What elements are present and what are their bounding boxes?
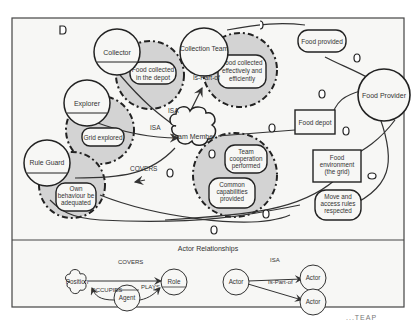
svg-text:Agent: Agent (119, 294, 136, 302)
legend-occupies-label: OCCUPIES (91, 287, 122, 293)
svg-text:Actor: Actor (229, 278, 244, 285)
svg-text:adequated: adequated (61, 199, 91, 207)
label-isa-explorer: ISA (150, 124, 161, 131)
svg-text:efficiently: efficiently (229, 75, 256, 83)
svg-text:Collection Team: Collection Team (180, 45, 229, 52)
goal-food-collected-depot[interactable]: Food collected in the depot (130, 62, 176, 84)
label-covers: COVERS (130, 165, 158, 172)
svg-text:Rule Guard: Rule Guard (30, 159, 65, 166)
svg-text:behaviour be: behaviour be (58, 192, 95, 199)
actor-collection-team[interactable]: Collection Team (180, 28, 229, 76)
goal-food-provided[interactable]: Food provided (298, 30, 346, 52)
caption-fragment: ...TEAP (346, 314, 377, 321)
svg-text:in the depot: in the depot (136, 74, 170, 82)
svg-text:Move and: Move and (324, 193, 352, 200)
resource-food-environment[interactable]: Food environment (the grid) (313, 150, 361, 182)
legend-title: Actor Relationships (178, 245, 239, 253)
svg-text:provided: provided (220, 195, 245, 203)
legend-isa-label: ISA (270, 257, 280, 263)
legend-role: Role (161, 269, 187, 295)
svg-text:Food depot: Food depot (299, 119, 332, 127)
legend-actor-a: Actor (223, 269, 249, 295)
goal-common-capabilities[interactable]: Common capabilities provided (209, 178, 255, 208)
actor-explorer[interactable]: Explorer (64, 80, 110, 126)
svg-text:environment: environment (320, 161, 355, 168)
svg-text:access rules: access rules (321, 200, 356, 207)
svg-text:Role: Role (168, 278, 181, 285)
legend-actor-b: Actor (300, 265, 326, 291)
goal-team-cooperation[interactable]: Team cooperation performed (225, 145, 267, 173)
goal-own-behaviour[interactable]: Own behaviour be adequated (56, 183, 96, 211)
svg-text:Food: Food (330, 154, 345, 161)
actor-rule-guard[interactable]: Rule Guard (24, 140, 70, 186)
resource-food-depot[interactable]: Food depot (295, 110, 335, 134)
svg-text:Team: Team (238, 148, 253, 155)
svg-text:Food provided: Food provided (301, 38, 343, 46)
legend-is-part-of-label: Is-Part-of (268, 279, 293, 285)
svg-text:effectively and: effectively and (222, 67, 263, 75)
svg-text:Grid explored: Grid explored (83, 134, 122, 142)
svg-text:Actor: Actor (306, 298, 321, 305)
label-is-part-of: Is-Part-of (193, 74, 220, 81)
legend-plays-label: PLAYS (141, 284, 160, 290)
svg-text:(the grid): (the grid) (324, 168, 349, 176)
svg-text:Actor: Actor (306, 274, 321, 281)
label-isa-collector: ISA (168, 107, 179, 114)
svg-text:Team Member: Team Member (171, 133, 216, 140)
svg-text:Food Provider: Food Provider (362, 92, 407, 99)
goal-move-access-rules[interactable]: Move and access rules respected (315, 190, 361, 220)
tropos-diagram: Food collected in the depot Grid explore… (0, 0, 416, 329)
svg-text:Food collected: Food collected (222, 59, 263, 66)
goal-grid-explored[interactable]: Grid explored (82, 128, 124, 146)
legend-covers-label: COVERS (118, 259, 143, 265)
svg-text:Collector: Collector (103, 49, 131, 56)
svg-text:performed: performed (232, 162, 261, 170)
legend-actor-c: Actor (300, 289, 326, 315)
svg-text:Explorer: Explorer (74, 100, 101, 108)
svg-text:Common: Common (219, 181, 245, 188)
actor-food-provider[interactable]: Food Provider (358, 69, 410, 121)
actor-collector[interactable]: Collector (94, 29, 140, 75)
svg-text:Own: Own (70, 185, 83, 192)
svg-text:respected: respected (324, 207, 352, 215)
svg-text:Food collected: Food collected (132, 66, 175, 73)
svg-text:Position: Position (66, 278, 89, 285)
